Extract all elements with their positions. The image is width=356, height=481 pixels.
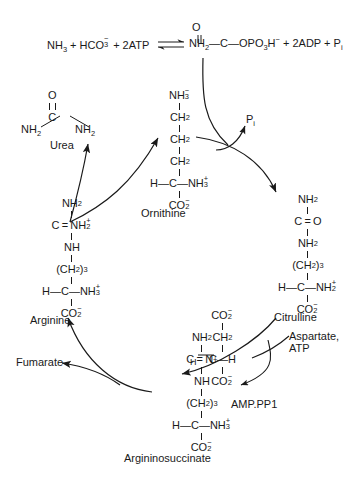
citrulline-amine-2: NH2: [298, 236, 318, 251]
argininosuccinate-succinyl-arm: CO−2 CH2 C—H CO−2: [209, 308, 236, 389]
bond: [307, 273, 308, 280]
urea-oxygen: O: [48, 88, 57, 103]
citrulline-terminal-amine: NH2: [298, 192, 318, 207]
bond: [201, 411, 202, 418]
amp-ppi-release-arrow: [241, 340, 271, 385]
bond: [201, 433, 202, 440]
label-fumarate: Fumarate: [16, 356, 63, 368]
label-urea: Urea: [50, 139, 74, 151]
label-aspartate-atp-line1: Aspartate,: [289, 330, 339, 342]
citrulline-carbonyl: C = O: [294, 214, 321, 229]
succinyl-carboxylate-bottom: CO−2: [211, 374, 234, 389]
arginine-nh: NH: [64, 240, 80, 255]
ornithine-ch2-2: CH2: [170, 132, 190, 147]
bond: [179, 125, 180, 132]
bond: [222, 345, 223, 352]
molecule-arginine: NH2 C = NH+2 NH (CH2)3 H—C—NH+3 CO−2: [42, 196, 102, 321]
citrulline-methylene-chain: (CH2)3: [292, 258, 324, 273]
label-arginine: Arginine: [30, 314, 70, 326]
arginine-terminal-amine: NH2: [62, 196, 82, 211]
bond: [201, 345, 202, 352]
label-citrulline: Citrulline: [274, 311, 317, 323]
bond: [179, 103, 180, 110]
succinyl-ch2: CH2: [212, 330, 232, 345]
ornithine-terminal-amine: NH−3: [169, 88, 191, 103]
argininosuccinate-n-hydrogen: H: [190, 358, 197, 367]
bond: [222, 323, 223, 330]
ornithine-ch2-3: CH2: [170, 154, 190, 169]
molecule-citrulline: NH2 C = O NH2 (CH2)3 H—C—NH+2 CO−2: [278, 192, 338, 317]
bond: [179, 191, 180, 198]
bond: [179, 169, 180, 176]
pi-label: Pi: [246, 114, 255, 126]
top-reaction-reactants: NH3 + HCO−3 + 2ATP: [47, 38, 149, 52]
urea-amine-right: NH2: [75, 124, 95, 136]
label-aspartate-atp-line2: ATP: [289, 342, 310, 354]
label-amp-ppi: AMP.PP1: [231, 398, 277, 410]
argininosuccinate-alpha-carbon: H—C—NH+3: [172, 418, 232, 433]
argininosuccinate-to-arginine-arrow: [68, 318, 152, 392]
bond: [71, 277, 72, 284]
ornithine-alpha-carbon: H—C—NH+3: [150, 176, 210, 191]
carbamoyl-phosphate-formula: NH2—C—OPO3H− + 2ADP + Pi: [189, 38, 343, 50]
bond: [71, 299, 72, 306]
arginine-alpha-carbon: H—C—NH+3: [42, 284, 102, 299]
bond: [71, 255, 72, 262]
arginine-guanidinium-carbon: C = NH+2: [52, 218, 93, 233]
molecule-ornithine: NH−3 CH2 CH2 CH2 H—C—NH+3 CO−2: [150, 88, 210, 213]
label-ornithine: Ornithine: [141, 207, 186, 219]
argininosuccinate-nh: NH: [194, 374, 210, 389]
bond: [307, 207, 308, 214]
bond: [201, 367, 202, 374]
bond: [71, 233, 72, 240]
bond: [307, 251, 308, 258]
bond: [201, 389, 202, 396]
argininosuccinate-methylene-chain: (CH2)3: [186, 396, 218, 411]
bond: [307, 229, 308, 236]
bond: [307, 295, 308, 302]
bond: [179, 147, 180, 154]
argininosuccinate-n-c-bond: [198, 352, 222, 358]
bond: [71, 211, 72, 218]
fumarate-output-arrow: [62, 363, 120, 385]
label-argininosuccinate: Argininosuccinate: [124, 452, 211, 464]
citrulline-alpha-carbon: H—C—NH+2: [278, 280, 338, 295]
urea-cycle-diagram: NH3 + HCO−3 + 2ATP O NH2—C—OPO3H− + 2ADP…: [0, 0, 356, 481]
ornithine-ch2-1: CH2: [170, 110, 190, 125]
succinyl-carboxylate-top: CO−2: [211, 308, 234, 323]
arginine-methylene-chain: (CH2)3: [56, 262, 88, 277]
carbamoyl-phosphate-carbonyl-o: O: [192, 22, 201, 34]
bond: [222, 367, 223, 374]
equilibrium-arrow: [158, 39, 184, 50]
urea-double-bond: [49, 103, 56, 110]
urea-amine-left: NH2: [21, 124, 41, 136]
